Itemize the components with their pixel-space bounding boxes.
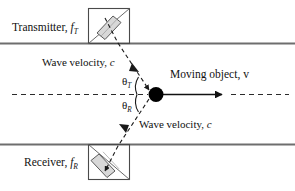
figure-root: Transmitter, fT Receiver, fR Wave veloci… <box>0 0 295 191</box>
receiver-label: Receiver, fR <box>24 157 78 169</box>
wave-velocity-top-text: Wave velocity, <box>42 56 107 68</box>
transmitter-crystal <box>0 0 121 40</box>
transmitter-label-text: Transmitter, <box>12 21 68 33</box>
receiver-transducer <box>89 145 130 180</box>
beam-receive-arrowhead <box>119 124 129 133</box>
angle-arc-receive <box>136 95 139 113</box>
wave-velocity-top-label: Wave velocity, c <box>42 57 115 68</box>
angle-arc-transmit <box>136 77 139 95</box>
wave-velocity-bottom-label: Wave velocity, c <box>139 119 212 130</box>
beam-transmit-arrowhead <box>129 63 139 72</box>
moving-object-label: Moving object, v <box>170 69 249 81</box>
receiver-crystal <box>91 152 119 178</box>
angle-transmit-label: θT <box>122 76 131 87</box>
transmitter-frequency-subscript: T <box>74 27 78 36</box>
transmitter-label: Transmitter, fT <box>12 22 78 34</box>
angle-transmit-subscript: T <box>127 82 131 90</box>
receiver-frequency-subscript: R <box>73 162 78 171</box>
wave-velocity-bottom-symbol: c <box>207 118 212 130</box>
moving-object-dot <box>149 87 164 102</box>
angle-receive-label: θR <box>122 100 132 111</box>
wave-velocity-bottom-text: Wave velocity, <box>139 118 204 130</box>
receiver-label-text: Receiver, <box>24 156 67 168</box>
wave-velocity-top-symbol: c <box>110 56 115 68</box>
angle-receive-subscript: R <box>127 106 131 114</box>
